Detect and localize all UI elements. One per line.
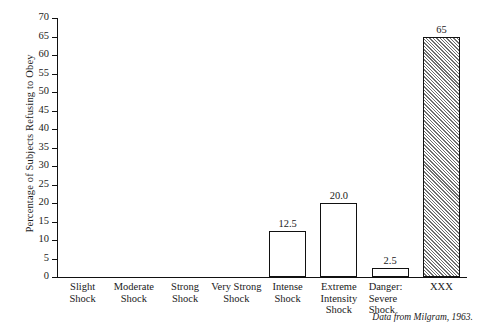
y-axis-title: Percentage of Subjects Refusing to Obey [24,19,35,269]
category-label-line: XXX [410,281,473,293]
y-axis-tick: 60 [52,55,57,56]
y-axis-tick: 65 [52,37,57,38]
bar-value-label: 20.0 [330,190,348,201]
category-label-line: Severe [369,293,434,305]
y-axis-tick-label: 25 [39,178,50,189]
y-axis-line [57,18,58,277]
y-axis-tick-label: 65 [39,30,50,41]
bar: 20.0 [320,203,357,277]
y-axis-tick: 45 [52,111,57,112]
bar: 65 [423,37,460,278]
bar-value-label: 12.5 [278,218,296,229]
y-axis-tick: 55 [52,74,57,75]
y-axis-tick: 20 [52,203,57,204]
source-note: Data from Milgram, 1963. [372,312,473,322]
y-axis-tick-label: 60 [39,48,50,59]
category-label-line: Intensity [307,293,370,305]
y-axis-tick-label: 0 [44,270,49,281]
y-axis-tick: 25 [52,185,57,186]
x-axis-category-label: ExtremeIntensityShock [307,281,370,316]
y-axis-tick-label: 45 [39,104,50,115]
bar-value-label: 2.5 [384,255,397,266]
y-axis-tick: 40 [52,129,57,130]
y-axis-tick-label: 20 [39,196,50,207]
y-axis-tick-label: 35 [39,141,50,152]
y-axis-tick: 50 [52,92,57,93]
y-axis-tick-label: 30 [39,159,50,170]
y-axis-tick: 0 [52,277,57,278]
y-axis-tick-label: 15 [39,215,50,226]
x-axis-line [57,277,467,278]
bar: 12.5 [269,231,306,277]
category-label-line: Extreme [307,281,370,293]
y-axis-tick: 15 [52,222,57,223]
plot-area: 0510152025303540455055606570 12.520.02.5… [57,18,467,277]
y-axis-tick-label: 10 [39,233,50,244]
y-axis-tick: 70 [52,18,57,19]
bar-value-label: 65 [436,24,447,35]
y-axis-tick-label: 50 [39,85,50,96]
category-label-line: Shock [307,304,370,316]
y-axis-tick: 10 [52,240,57,241]
y-axis-tick-label: 5 [44,252,49,263]
x-axis-category-label: XXX [410,281,473,293]
y-axis-tick-label: 55 [39,67,50,78]
y-axis-tick: 30 [52,166,57,167]
y-axis-tick-label: 40 [39,122,50,133]
bar-chart-figure: Percentage of Subjects Refusing to Obey … [0,0,483,334]
y-axis-tick: 5 [52,259,57,260]
y-axis-tick: 35 [52,148,57,149]
bar: 2.5 [372,268,409,277]
y-axis-tick-label: 70 [39,11,50,22]
